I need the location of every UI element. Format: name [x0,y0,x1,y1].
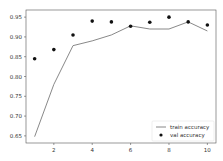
legend-label-val: val accuracy [170,132,205,139]
x-tick-label: 4 [90,147,94,153]
val-accuracy-point [52,48,56,52]
val-accuracy-point [186,20,190,24]
y-axis: 0.650.700.750.800.850.900.95 [10,14,26,139]
legend-label-train: train accuracy [170,124,210,131]
x-tick-label: 6 [129,147,133,153]
y-tick-label: 0.80 [10,74,23,80]
val-accuracy-point [167,15,171,19]
y-tick-label: 0.75 [10,93,23,99]
val-accuracy-point [110,20,114,24]
val-accuracy-point [90,19,94,23]
y-tick-label: 0.90 [10,34,23,40]
x-tick-label: 10 [204,147,211,153]
y-tick-label: 0.70 [10,113,23,119]
val-accuracy-point [129,24,133,28]
val-accuracy-point [71,33,75,37]
legend-dot-icon [159,133,162,136]
y-tick-label: 0.65 [10,133,23,139]
val-accuracy-point [206,23,210,27]
x-tick-label: 8 [167,147,171,153]
y-tick-label: 0.85 [10,54,23,60]
legend: train accuracy val accuracy [152,121,214,141]
val-accuracy-point [148,20,152,24]
accuracy-chart: 0.650.700.750.800.850.900.95 246810 trai… [0,0,223,161]
y-tick-label: 0.95 [10,14,23,20]
x-axis: 246810 [52,143,211,153]
val-accuracy-point [33,57,37,61]
x-tick-label: 2 [52,147,56,153]
